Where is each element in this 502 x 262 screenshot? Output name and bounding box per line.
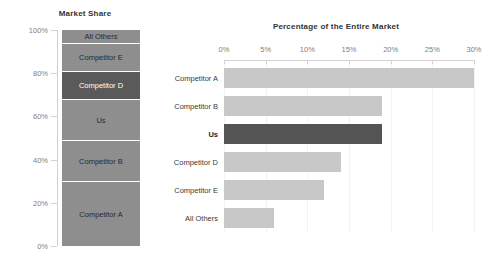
- bar-chart-bar[interactable]: [224, 96, 382, 116]
- bar-chart-x-tick-label: 30%: [454, 45, 494, 54]
- stacked-y-tick-mark: [51, 116, 57, 117]
- stacked-segment[interactable]: Us: [62, 99, 140, 140]
- bar-chart-bar[interactable]: [224, 208, 274, 228]
- stacked-y-tick-mark: [51, 73, 57, 74]
- stacked-segment[interactable]: Competitor E: [62, 43, 140, 71]
- stacked-y-tick-mark: [51, 30, 57, 31]
- stacked-y-tick-mark: [51, 160, 57, 161]
- bar-chart-row[interactable]: All Others: [170, 204, 502, 232]
- bar-chart-row[interactable]: Competitor A: [170, 64, 502, 92]
- bar-chart-row[interactable]: Us: [170, 120, 502, 148]
- stacked-segment-label: Competitor D: [79, 81, 123, 90]
- bar-chart-row[interactable]: Competitor E: [170, 176, 502, 204]
- stacked-segment-label: Us: [96, 116, 105, 125]
- stacked-segment-label: Competitor A: [79, 210, 122, 219]
- bar-chart-x-tick-label: 25%: [412, 45, 452, 54]
- bar-chart-title: Percentage of the Entire Market: [170, 22, 502, 31]
- bar-chart-row-label: Competitor D: [170, 158, 218, 167]
- stacked-y-tick-label: 0%: [8, 242, 48, 251]
- bar-chart-bar[interactable]: [224, 124, 382, 144]
- bar-chart-bar[interactable]: [224, 180, 324, 200]
- bar-chart-row-label: Competitor A: [170, 74, 218, 83]
- stacked-bar: All OthersCompetitor ECompetitor DUsComp…: [62, 30, 140, 246]
- bar-chart-row-label: Competitor E: [170, 186, 218, 195]
- bar-chart-row-label: All Others: [170, 214, 218, 223]
- bar-chart-bar[interactable]: [224, 68, 474, 88]
- bar-chart-x-tick-label: 0%: [204, 45, 244, 54]
- stacked-segment[interactable]: All Others: [62, 30, 140, 43]
- stacked-y-tick-mark: [51, 203, 57, 204]
- stacked-chart-title: Market Share: [0, 9, 170, 18]
- stacked-segment-label: Competitor E: [79, 53, 123, 62]
- bar-chart-x-tick-label: 5%: [246, 45, 286, 54]
- percentage-of-market-bar-chart: Percentage of the Entire Market 0%5%10%1…: [170, 0, 502, 262]
- bar-chart-x-tick-label: 15%: [329, 45, 369, 54]
- stacked-y-tick-label: 80%: [8, 69, 48, 78]
- stacked-segment-label: Competitor B: [79, 157, 123, 166]
- bar-chart-bar[interactable]: [224, 152, 341, 172]
- stacked-y-tick-label: 20%: [8, 198, 48, 207]
- stacked-segment[interactable]: Competitor A: [62, 181, 140, 246]
- stacked-y-tick-label: 100%: [8, 26, 48, 35]
- bar-chart-row[interactable]: Competitor D: [170, 148, 502, 176]
- stacked-y-tick-mark: [51, 246, 57, 247]
- stacked-segment[interactable]: Competitor B: [62, 140, 140, 181]
- stacked-segment-label: All Others: [85, 32, 118, 41]
- bar-chart-x-tick-label: 20%: [371, 45, 411, 54]
- bar-chart-x-tick-label: 10%: [287, 45, 327, 54]
- market-share-stacked-chart: Market Share 100%80%60%40%20%0% All Othe…: [0, 0, 170, 262]
- stacked-y-tick-label: 40%: [8, 155, 48, 164]
- bar-chart-row[interactable]: Competitor B: [170, 92, 502, 120]
- bar-chart-row-label: Us: [170, 130, 218, 139]
- stacked-segment[interactable]: Competitor D: [62, 71, 140, 99]
- stacked-y-axis-line: [57, 30, 58, 246]
- stacked-y-tick-label: 60%: [8, 112, 48, 121]
- bar-chart-row-label: Competitor B: [170, 102, 218, 111]
